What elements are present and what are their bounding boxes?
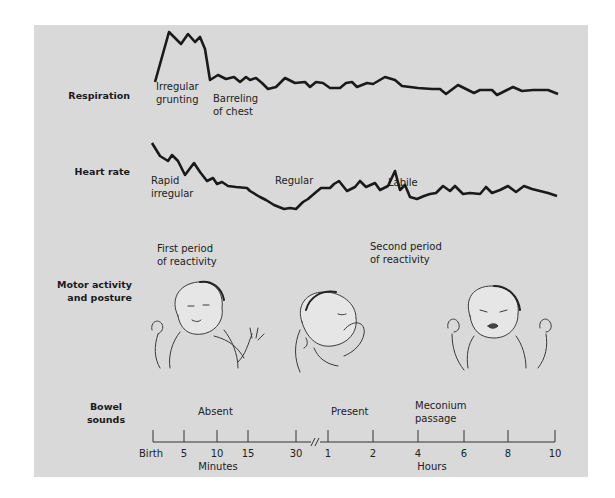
diagram-graphics	[0, 0, 615, 498]
tick-label-6-hr: 6	[461, 448, 467, 459]
tick-label-birth: Birth	[139, 448, 163, 459]
respiration-curve	[155, 32, 558, 95]
heart-rate-curve	[152, 143, 557, 209]
infant-sleeping-illustration	[296, 292, 365, 372]
tick-label-15-min: 15	[242, 448, 255, 459]
tick-label-2-hr: 2	[370, 448, 376, 459]
axis-ticks	[153, 430, 555, 442]
axis-break-icon	[311, 437, 320, 446]
tick-label-5-min: 5	[181, 448, 187, 459]
infant-alert-illustration	[152, 282, 264, 368]
tick-label-1-hr: 1	[325, 448, 331, 459]
tick-label-10-min: 10	[211, 448, 224, 459]
tick-label-4-hr: 4	[415, 448, 421, 459]
tick-label-8-hr: 8	[505, 448, 511, 459]
infant-crying-illustration	[448, 286, 552, 370]
tick-label-10-hr: 10	[549, 448, 562, 459]
axis-unit-minutes: Minutes	[198, 461, 237, 472]
tick-label-30-min: 30	[290, 448, 303, 459]
axis-unit-hours: Hours	[417, 461, 446, 472]
